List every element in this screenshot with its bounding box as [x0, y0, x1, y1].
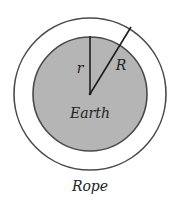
earth-label: Earth — [69, 105, 110, 121]
outer-radius-label: R — [115, 57, 127, 73]
center-point — [89, 93, 92, 96]
diagram-canvas: r R Earth Rope — [0, 0, 178, 210]
rope-label: Rope — [71, 178, 108, 194]
